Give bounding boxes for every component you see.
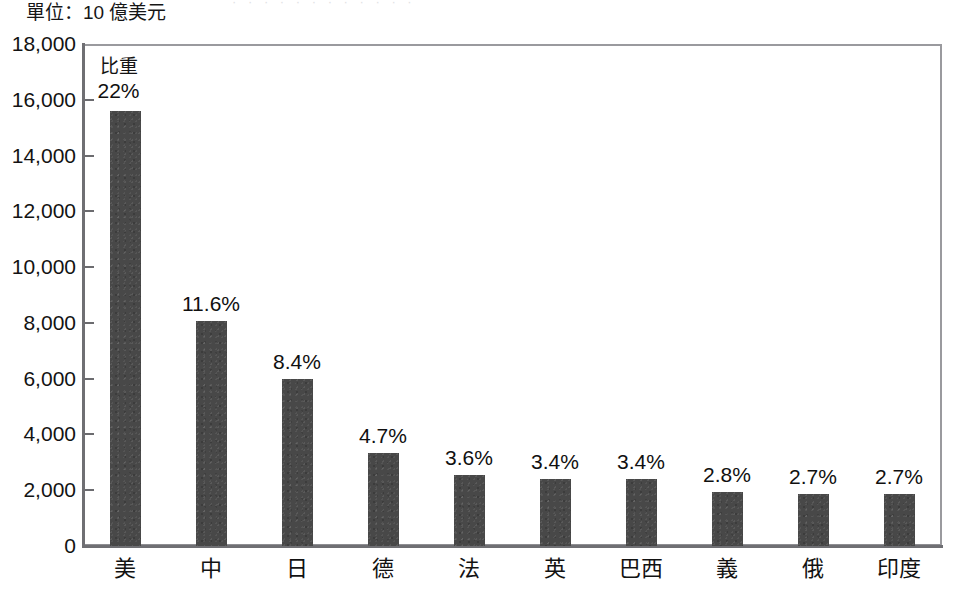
y-axis-tick-mark	[85, 99, 94, 101]
y-axis-tick-mark	[85, 489, 94, 491]
bar-義	[712, 492, 743, 546]
y-axis-tick-mark	[85, 155, 94, 157]
y-axis-tick-mark	[85, 322, 94, 324]
y-axis-tick-label: 18,000	[0, 33, 76, 54]
y-axis-tick-label: 2,000	[0, 479, 76, 500]
bar-value-label: 4.7%	[328, 425, 438, 446]
y-axis-tick-mark	[85, 266, 94, 268]
bar-chart-figure: · · · · · · · · · · · · 單位：10 億美元 18,000…	[0, 0, 970, 596]
y-axis-tick-label: 0	[0, 535, 76, 556]
bar-法	[454, 475, 485, 546]
unit-label: 單位：10 億美元	[26, 2, 166, 24]
y-axis-tick-label: 6,000	[0, 368, 76, 389]
y-axis-tick-mark	[85, 378, 94, 380]
bar-value-label: 8.4%	[242, 351, 352, 372]
bar-value-label: 11.6%	[156, 293, 266, 314]
y-axis-tick-label: 14,000	[0, 145, 76, 166]
ratio-caption: 比重	[100, 57, 138, 77]
y-axis-tick-label: 12,000	[0, 200, 76, 221]
bar-巴西	[626, 479, 657, 546]
bar-美	[110, 111, 141, 546]
bar-value-label: 22%	[98, 80, 208, 101]
bar-value-label: 2.7%	[844, 466, 954, 487]
bar-英	[540, 479, 571, 546]
y-axis-tick-label: 10,000	[0, 256, 76, 277]
bar-俄	[798, 494, 829, 546]
y-axis-line	[82, 43, 85, 548]
x-axis-label-印度: 印度	[844, 556, 954, 582]
y-axis-tick-mark	[85, 433, 94, 435]
y-axis-tick-label: 16,000	[0, 89, 76, 110]
cropped-title-sliver: · · · · · · · · · · · ·	[232, 0, 752, 6]
bar-日	[282, 379, 313, 546]
y-axis-tick-mark	[85, 210, 94, 212]
y-axis-tick-label: 8,000	[0, 312, 76, 333]
bar-德	[368, 453, 399, 546]
y-axis-tick-label: 4,000	[0, 423, 76, 444]
bar-印度	[884, 494, 915, 546]
bar-中	[196, 321, 227, 546]
